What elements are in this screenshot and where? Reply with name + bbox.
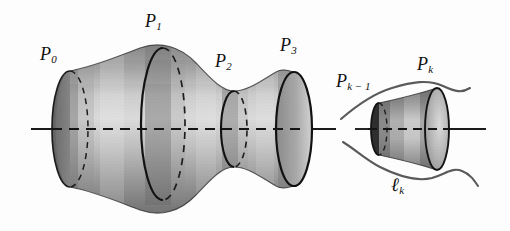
label-p3-base: P — [280, 35, 291, 55]
label-pk: Pk — [417, 55, 433, 75]
label-lk-sub: k — [399, 184, 404, 196]
label-pk-minus-1-sub: k − 1 — [347, 80, 370, 92]
label-pk-minus-1-base: P — [336, 71, 347, 91]
label-lk-base: ℓ — [391, 174, 399, 195]
label-p1-base: P — [145, 11, 156, 31]
label-p0: P0 — [40, 45, 57, 65]
label-p2-base: P — [215, 51, 226, 71]
figure-canvas: P0 P1 P2 P3 Pk − 1 Pk ℓk — [0, 0, 510, 231]
label-p0-base: P — [40, 44, 51, 64]
label-p2: P2 — [215, 52, 232, 72]
label-p0-sub: 0 — [51, 53, 57, 65]
label-p1: P1 — [145, 12, 162, 32]
label-lk: ℓk — [391, 175, 404, 196]
label-pk-sub: k — [428, 63, 433, 75]
halftone-texture — [40, 30, 310, 210]
label-pk-base: P — [417, 54, 428, 74]
diagram-svg — [0, 0, 510, 231]
label-p3: P3 — [280, 36, 297, 56]
small-tube-segment — [341, 80, 486, 186]
label-p3-sub: 3 — [291, 44, 297, 56]
label-p2-sub: 2 — [226, 60, 232, 72]
label-pk-minus-1: Pk − 1 — [336, 72, 371, 92]
label-p1-sub: 1 — [156, 20, 162, 32]
